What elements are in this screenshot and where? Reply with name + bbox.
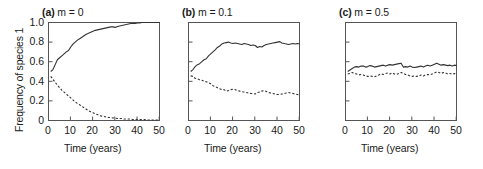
panel-b-xtick-1: 10 xyxy=(200,124,220,136)
panel-b-tag: (b) xyxy=(182,6,195,18)
panel-b-title-rest: m = 0.1 xyxy=(195,6,232,18)
panel-a-xtick-3: 30 xyxy=(105,124,125,136)
panel-b: (b) m = 0.1 xyxy=(170,0,327,169)
panel-b-frame xyxy=(189,23,300,121)
panel-a-xtick-2: 20 xyxy=(82,124,102,136)
panel-a-xlabel: Time (years) xyxy=(64,142,121,154)
panel-a-xtick-4: 40 xyxy=(127,124,147,136)
panel-c: (c) m = 0.5 xyxy=(327,0,483,169)
panel-c-xtick-1: 10 xyxy=(357,124,377,136)
panel-a-svg xyxy=(48,22,160,121)
panel-c-plot xyxy=(345,22,457,121)
panel-b-xtick-3: 30 xyxy=(245,124,265,136)
ytick-label-3: 0.4 xyxy=(10,75,44,87)
panel-a: (a) m = 0 xyxy=(0,0,170,169)
panel-c-title-rest: m = 0.5 xyxy=(352,6,389,18)
panel-b-xtick-4: 40 xyxy=(267,124,287,136)
panel-b-xtick-2: 20 xyxy=(222,124,242,136)
panel-a-title: (a) m = 0 xyxy=(42,6,83,18)
panel-b-xtick-5: 50 xyxy=(289,124,309,136)
panel-c-title: (c) m = 0.5 xyxy=(339,6,389,18)
panel-c-xtick-3: 30 xyxy=(402,124,422,136)
panel-b-xtick-0: 0 xyxy=(178,124,198,136)
ytick-label-2: 0.6 xyxy=(10,55,44,67)
panel-a-xtick-0: 0 xyxy=(38,124,58,136)
panel-a-frame xyxy=(49,23,160,121)
panel-c-xlabel: Time (years) xyxy=(361,142,418,154)
panel-b-title: (b) m = 0.1 xyxy=(182,6,233,18)
panel-c-xtick-0: 0 xyxy=(335,124,355,136)
figure-container: Frequency of species 1 (a) m = 0 xyxy=(0,0,483,169)
ytick-label-1: 0.8 xyxy=(10,35,44,47)
panel-b-xlabel: Time (years) xyxy=(204,142,261,154)
panel-c-svg xyxy=(345,22,457,121)
panel-a-xtick-5: 50 xyxy=(149,124,169,136)
panel-a-xtick-1: 10 xyxy=(60,124,80,136)
ytick-label-4: 0.2 xyxy=(10,94,44,106)
panel-c-tag: (c) xyxy=(339,6,352,18)
ytick-label-0: 1.0 xyxy=(10,16,44,28)
panel-a-title-rest: m = 0 xyxy=(55,6,84,18)
panel-c-xtick-5: 50 xyxy=(446,124,466,136)
panel-c-frame xyxy=(346,23,457,121)
panel-b-plot xyxy=(188,22,300,121)
panel-a-plot xyxy=(48,22,160,121)
panel-c-xtick-4: 40 xyxy=(424,124,444,136)
panel-b-svg xyxy=(188,22,300,121)
panel-c-xtick-2: 20 xyxy=(379,124,399,136)
